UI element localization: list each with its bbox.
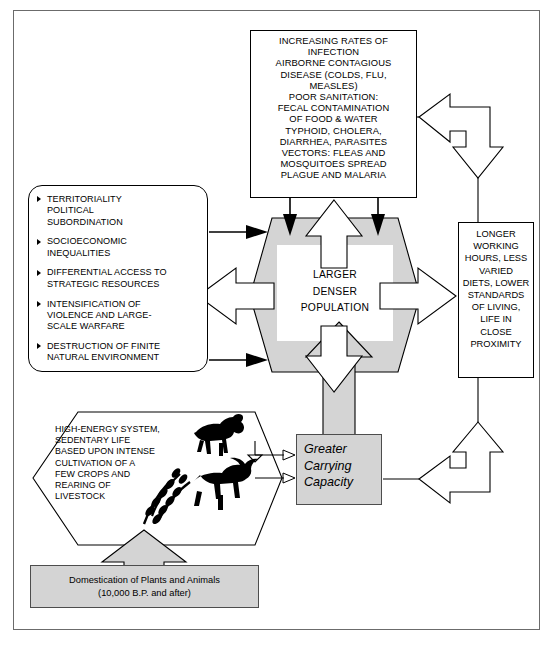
conditions-line: DIETS, LOWER — [459, 277, 533, 289]
infection-line: INFECTION — [254, 46, 413, 57]
bullet-triangle-icon — [37, 239, 41, 245]
list-item: DIFFERENTIAL ACCESS TO STRATEGIC RESOURC… — [37, 267, 201, 290]
bullet-triangle-icon — [37, 270, 41, 276]
bullet-line: SUBORDINATION — [47, 217, 201, 228]
agriculture-line: REARING OF — [55, 480, 185, 491]
agriculture-line: FEW CROPS AND — [55, 469, 185, 480]
conditions-line: HOURS, LESS — [459, 252, 533, 264]
carrying-line: Carrying — [304, 458, 381, 475]
conditions-line: LONGER — [459, 228, 533, 240]
infection-line: OF FOOD & WATER — [254, 113, 413, 124]
conditions-line: OF LIVING, — [459, 301, 533, 313]
conditions-line: STANDARDS — [459, 289, 533, 301]
social-consequences-box: TERRITORIALITY POLITICAL SUBORDINATION S… — [28, 185, 208, 372]
bullet-line: NATURAL ENVIRONMENT — [47, 352, 201, 363]
bullet-line: VIOLENCE AND LARGE- — [47, 310, 201, 321]
domestication-box: Domestication of Plants and Animals (10,… — [30, 565, 259, 608]
infection-line: MEASLES) — [254, 80, 413, 91]
agriculture-line: SEDENTARY LIFE — [55, 435, 185, 446]
domestication-line: Domestication of Plants and Animals — [31, 574, 258, 586]
bullet-line: INTENSIFICATION OF — [47, 299, 201, 310]
infection-line: POOR SANITATION: — [254, 91, 413, 102]
conditions-line: CLOSE — [459, 326, 533, 338]
bullet-line: DESTRUCTION OF FINITE — [47, 341, 201, 352]
bullet-triangle-icon — [37, 301, 41, 307]
agriculture-line: CULTIVATION OF A — [55, 458, 185, 469]
bullet-triangle-icon — [37, 343, 41, 349]
greater-carrying-capacity-box: Greater Carrying Capacity — [296, 434, 382, 505]
living-conditions-box: LONGER WORKING HOURS, LESS VARIED DIETS,… — [458, 222, 534, 378]
infection-line: AIRBORNE CONTAGIOUS — [254, 57, 413, 68]
population-line: DENSER — [282, 284, 388, 301]
bullet-line: STRATEGIC RESOURCES — [47, 279, 201, 290]
bullet-line: TERRITORIALITY — [47, 194, 201, 205]
bullet-line: POLITICAL — [47, 205, 201, 216]
population-line: LARGER — [282, 267, 388, 284]
carrying-line: Greater — [304, 441, 381, 458]
bullet-line: SOCIOECONOMIC — [47, 236, 201, 247]
conditions-to-infection-elbow-arrow — [419, 94, 503, 178]
conditions-line: LIFE IN — [459, 313, 533, 325]
infection-line: PLAGUE AND MALARIA — [254, 169, 413, 180]
infection-line: VECTORS: FLEAS AND — [254, 147, 413, 158]
population-line: POPULATION — [282, 300, 388, 317]
bullet-line: SCALE WARFARE — [47, 321, 201, 332]
bullet-triangle-icon — [37, 196, 41, 202]
conditions-line: PROXIMITY — [459, 338, 533, 350]
consequences-to-population-arrow-bottom — [209, 353, 268, 367]
conditions-line: VARIED — [459, 265, 533, 277]
agriculture-line: LIVESTOCK — [55, 491, 185, 502]
infection-line: DIARRHEA, PARASITES — [254, 136, 413, 147]
increasing-rates-of-infection-box: INCREASING RATES OF INFECTION AIRBORNE C… — [250, 30, 417, 198]
list-item: INTENSIFICATION OF VIOLENCE AND LARGE- S… — [37, 299, 201, 333]
high-energy-system-label: HIGH-ENERGY SYSTEM, SEDENTARY LIFE BASED… — [55, 424, 185, 519]
infection-line: FECAL CONTAMINATION — [254, 102, 413, 113]
agriculture-line: HIGH-ENERGY SYSTEM, — [55, 424, 185, 435]
bullet-line: INEQUALITIES — [47, 248, 201, 259]
carrying-line: Capacity — [304, 474, 381, 491]
consequences-to-population-arrow-top — [209, 225, 268, 239]
domestication-line: (10,000 B.P. and after) — [31, 587, 258, 599]
agriculture-line: BASED UPON INTENSE — [55, 446, 185, 457]
larger-denser-population-label: LARGER DENSER POPULATION — [282, 262, 388, 322]
list-item: TERRITORIALITY POLITICAL SUBORDINATION — [37, 194, 201, 228]
conditions-line: WORKING — [459, 240, 533, 252]
infection-line: TYPHOID, CHOLERA, — [254, 125, 413, 136]
infection-line: MOSQUITOES SPREAD — [254, 158, 413, 169]
list-item: SOCIOECONOMIC INEQUALITIES — [37, 236, 201, 259]
infection-line: DISEASE (COLDS, FLU, — [254, 69, 413, 80]
bullet-line: DIFFERENTIAL ACCESS TO — [47, 267, 201, 278]
list-item: DESTRUCTION OF FINITE NATURAL ENVIRONMEN… — [37, 341, 201, 364]
infection-line: INCREASING RATES OF — [254, 35, 413, 46]
carrying-to-conditions-elbow-arrow — [419, 422, 503, 503]
